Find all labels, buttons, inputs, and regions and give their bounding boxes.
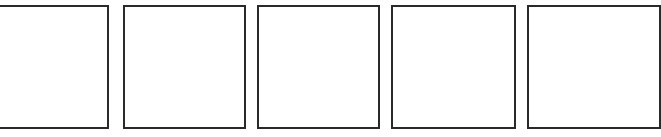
empty-box-5 [527,5,661,129]
empty-box-2 [123,5,246,129]
empty-box-4 [391,5,516,129]
empty-box-1 [0,5,109,129]
empty-box-3 [257,5,380,129]
